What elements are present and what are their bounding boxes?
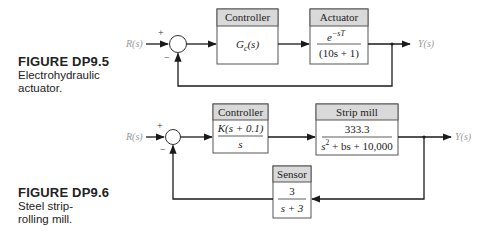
denominator: s2 + bs + 10,000: [321, 138, 393, 152]
numerator: 333.3: [345, 123, 370, 135]
block-title: Sensor: [277, 168, 307, 180]
input-label: R(s): [125, 38, 143, 50]
feedback-path-to-sum: [173, 146, 273, 200]
plus-sign: +: [158, 27, 164, 38]
denominator: s: [238, 138, 242, 150]
controller-block: Controller K(s + 0.1) s: [213, 104, 268, 153]
sensor-block: Sensor 3 s + 3: [273, 166, 311, 218]
numerator: 3: [289, 185, 295, 197]
block-title: Actuator: [320, 11, 359, 23]
summing-junction: [170, 36, 187, 53]
block-title: Controller: [218, 106, 264, 118]
controller-block: Controller Gc(s): [217, 9, 278, 64]
block-diagrams: R(s) + − Controller Gc(s) Actuator e−sT …: [0, 0, 486, 236]
block-title: Controller: [225, 11, 271, 23]
strip-mill-block: Strip mill 333.3 s2 + bs + 10,000: [316, 104, 398, 155]
numerator: K(s + 0.1): [217, 122, 264, 135]
output-label: Y(s): [418, 38, 435, 50]
denominator: s + 3: [281, 202, 304, 214]
summing-junction: [166, 130, 181, 145]
minus-sign: −: [164, 52, 170, 63]
diagram-dp9-5: R(s) + − Controller Gc(s) Actuator e−sT …: [125, 9, 435, 86]
input-label: R(s): [125, 131, 143, 143]
actuator-block: Actuator e−sT (10s + 1): [310, 9, 368, 64]
output-label: Y(s): [455, 131, 472, 143]
minus-sign: −: [160, 144, 166, 155]
plus-sign: +: [157, 120, 163, 131]
block-title: Strip mill: [336, 106, 378, 118]
denominator: (10s + 1): [319, 47, 359, 60]
diagram-dp9-6: R(s) + − Controller K(s + 0.1) s Strip m…: [125, 104, 472, 218]
